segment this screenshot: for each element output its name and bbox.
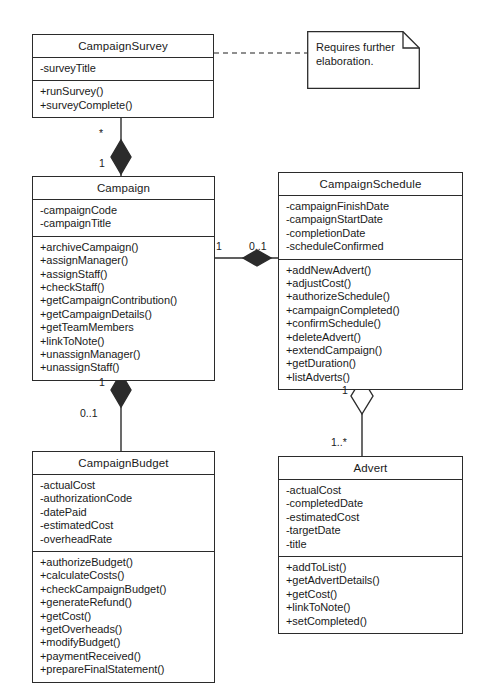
operation: +checkCampaignBudget() — [40, 583, 212, 596]
operation: +getCampaignDetails() — [40, 308, 212, 321]
operation: +addToList() — [286, 561, 460, 574]
class-name-campaign: Campaign — [33, 177, 214, 200]
class-box-campaign[interactable]: Campaign -campaignCode -campaignTitle +a… — [32, 176, 215, 381]
operation: +getDuration() — [286, 357, 460, 370]
note-requires-further-elaboration: Requires further elaboration. — [307, 31, 420, 89]
operation: +archiveCampaign() — [40, 241, 212, 254]
attribute: -scheduleConfirmed — [286, 240, 460, 253]
multiplicity-survey-end: * — [99, 128, 103, 139]
operation: +linkToNote() — [40, 335, 212, 348]
attribute: -completedDate — [286, 497, 460, 510]
attribute: -completionDate — [286, 227, 460, 240]
operation: +deleteAdvert() — [286, 331, 460, 344]
attribute: -estimatedCost — [40, 519, 212, 532]
class-box-campaign-budget[interactable]: CampaignBudget -actualCost -authorizatio… — [32, 451, 215, 683]
multiplicity-campaign-end-survey: 1 — [99, 158, 105, 169]
operation: +linkToNote() — [286, 601, 460, 614]
operation: +surveyComplete() — [40, 99, 211, 112]
multiplicity-campaign-end-budget: 1 — [99, 377, 105, 388]
multiplicity-advert-end: 1..* — [331, 437, 347, 448]
attribute: -datePaid — [40, 506, 212, 519]
class-name-campaign-budget: CampaignBudget — [33, 452, 214, 475]
attribute: -campaignFinishDate — [286, 200, 460, 213]
operation: +confirmSchedule() — [286, 317, 460, 330]
operation: +getCost() — [286, 588, 460, 601]
operation: +calculateCosts() — [40, 569, 212, 582]
operation: +extendCampaign() — [286, 344, 460, 357]
operation: +runSurvey() — [40, 85, 211, 98]
operation: +authorizeBudget() — [40, 556, 212, 569]
attributes-campaign-budget: -actualCost -authorizationCode -datePaid… — [33, 475, 214, 552]
attribute: -authorizationCode — [40, 492, 212, 505]
attributes-campaign: -campaignCode -campaignTitle — [33, 200, 214, 237]
note-text: Requires further elaboration. — [316, 40, 413, 68]
operation: +generateRefund() — [40, 596, 212, 609]
attributes-campaign-survey: -surveyTitle — [33, 58, 213, 81]
class-name-advert: Advert — [279, 457, 462, 480]
attribute: -campaignTitle — [40, 217, 212, 230]
class-box-campaign-schedule[interactable]: CampaignSchedule -campaignFinishDate -ca… — [278, 172, 463, 390]
operation: +assignManager() — [40, 254, 212, 267]
operation: +authorizeSchedule() — [286, 290, 460, 303]
multiplicity-schedule-end-advert: 1 — [342, 385, 348, 396]
filled-diamond-campaign-schedule — [243, 250, 271, 266]
operation: +unassignStaff() — [40, 361, 212, 374]
attribute: -surveyTitle — [40, 62, 211, 75]
attributes-campaign-schedule: -campaignFinishDate -campaignStartDate -… — [279, 196, 462, 260]
attribute: -estimatedCost — [286, 511, 460, 524]
operations-campaign-survey: +runSurvey() +surveyComplete() — [33, 81, 213, 117]
operation: +paymentReceived() — [40, 650, 212, 663]
class-name-campaign-schedule: CampaignSchedule — [279, 173, 462, 196]
operation: +adjustCost() — [286, 277, 460, 290]
attribute: -campaignCode — [40, 204, 212, 217]
operation: +getOverheads() — [40, 623, 212, 636]
multiplicity-schedule-end: 0..1 — [249, 241, 267, 252]
multiplicity-campaign-end-schedule: 1 — [216, 241, 222, 252]
operation: +getCost() — [40, 610, 212, 623]
class-name-campaign-survey: CampaignSurvey — [33, 35, 213, 58]
attributes-advert: -actualCost -completedDate -estimatedCos… — [279, 480, 462, 557]
attribute: -campaignStartDate — [286, 213, 460, 226]
operation: +modifyBudget() — [40, 636, 212, 649]
operations-advert: +addToList() +getAdvertDetails() +getCos… — [279, 557, 462, 633]
attribute: -targetDate — [286, 524, 460, 537]
operation: +assignStaff() — [40, 268, 212, 281]
operation: +getAdvertDetails() — [286, 574, 460, 587]
operation: +setCompleted() — [286, 615, 460, 628]
operation: +prepareFinalStatement() — [40, 663, 212, 676]
operation: +listAdverts() — [286, 371, 460, 384]
operations-campaign-schedule: +addNewAdvert() +adjustCost() +authorize… — [279, 260, 462, 390]
class-box-advert[interactable]: Advert -actualCost -completedDate -estim… — [278, 456, 463, 634]
operation: +unassignManager() — [40, 348, 212, 361]
operation: +addNewAdvert() — [286, 264, 460, 277]
attribute: -actualCost — [286, 484, 460, 497]
operation: +campaignCompleted() — [286, 304, 460, 317]
operations-campaign-budget: +authorizeBudget() +calculateCosts() +ch… — [33, 552, 214, 682]
attribute: -actualCost — [40, 479, 212, 492]
operations-campaign: +archiveCampaign() +assignManager() +ass… — [33, 237, 214, 380]
attribute: -title — [286, 538, 460, 551]
multiplicity-budget-end: 0..1 — [80, 408, 98, 419]
operation: +checkStaff() — [40, 281, 212, 294]
operation: +getTeamMembers — [40, 321, 212, 334]
attribute: -overheadRate — [40, 533, 212, 546]
filled-diamond-campaign-survey — [111, 140, 131, 174]
class-box-campaign-survey[interactable]: CampaignSurvey -surveyTitle +runSurvey()… — [32, 34, 214, 118]
operation: +getCampaignContribution() — [40, 294, 212, 307]
